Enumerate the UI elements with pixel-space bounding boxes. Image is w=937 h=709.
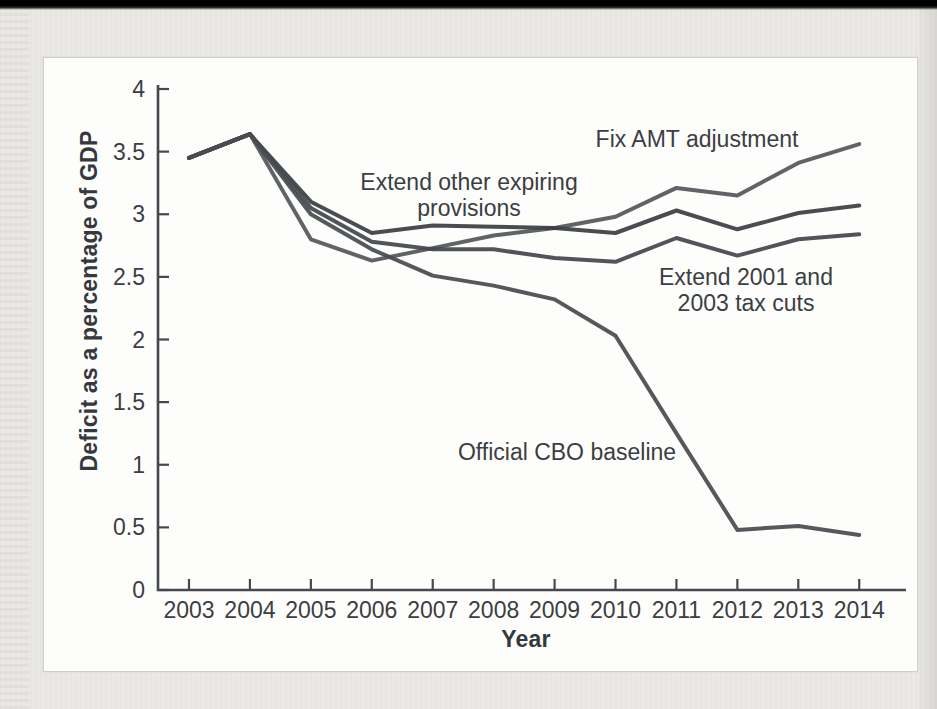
scan-top-edge (0, 0, 937, 10)
annotation-extend-tax-line2: 2003 tax cuts (678, 290, 815, 316)
annotation-extend-tax-line1: Extend 2001 and (659, 264, 833, 290)
annotation-fix-amt: Fix AMT adjustment (596, 126, 799, 152)
x-tick-label: 2013 (773, 597, 824, 623)
x-tick-label: 2009 (529, 597, 580, 623)
x-tick-label: 2003 (163, 597, 214, 623)
page: { "figure": { "y_axis_title": "Deficit a… (0, 0, 937, 709)
y-tick-label: 3.5 (113, 139, 145, 165)
y-tick-label: 3 (132, 201, 145, 227)
x-tick-label: 2014 (834, 597, 885, 623)
y-tick-label: 2.5 (113, 264, 145, 290)
figure-panel: 00.511.522.533.5420032004200520062007200… (43, 57, 918, 672)
x-tick-label: 2004 (224, 597, 275, 623)
annotation-extend-other: Extend other expiring provisions (360, 169, 577, 221)
x-tick-label: 2005 (285, 597, 336, 623)
y-tick-label: 1.5 (113, 389, 145, 415)
annotation-fix-amt-line1: Fix AMT adjustment (596, 126, 799, 152)
y-tick-label: 2 (132, 327, 145, 353)
y-tick-label: 0.5 (113, 514, 145, 540)
x-tick-label: 2007 (407, 597, 458, 623)
x-axis-title: Year (501, 626, 550, 653)
x-tick-label: 2012 (712, 597, 763, 623)
x-tick-label: 2006 (346, 597, 397, 623)
scan-left-edge (0, 8, 30, 709)
y-tick-label: 1 (132, 452, 145, 478)
x-tick-label: 2008 (468, 597, 519, 623)
annotation-cbo-baseline: Official CBO baseline (458, 439, 676, 465)
y-tick-label: 4 (132, 76, 145, 102)
annotation-extend-other-line1: Extend other expiring (360, 169, 577, 195)
annotation-extend-other-line2: provisions (417, 195, 521, 221)
scan-right-edge (919, 8, 937, 709)
y-axis-title: Deficit as a percentage of GDP (76, 131, 103, 472)
y-tick-label: 0 (132, 577, 145, 603)
annotation-cbo-baseline-line1: Official CBO baseline (458, 439, 676, 465)
x-tick-label: 2010 (590, 597, 641, 623)
x-tick-label: 2011 (652, 597, 701, 623)
annotation-extend-tax: Extend 2001 and 2003 tax cuts (659, 264, 833, 316)
